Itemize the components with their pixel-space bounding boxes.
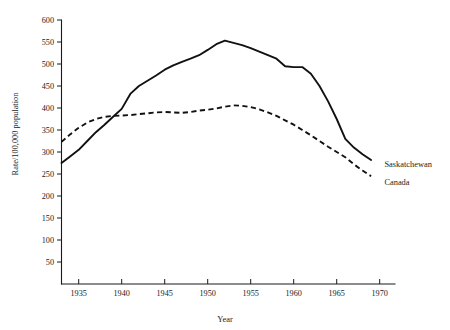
y-tick-label: 150 [42,214,54,223]
series-label-saskatchewan: Saskatchewan [384,160,432,169]
line-chart: 50100150200250300350400450500550600 1935… [0,0,450,330]
x-tick-label: 1940 [114,289,130,298]
x-tick-label: 1935 [71,289,87,298]
x-tick-label: 1960 [286,289,302,298]
y-axis-ticks: 50100150200250300350400450500550600 [42,16,62,267]
series-label-canada: Canada [384,178,409,187]
series-line-saskatchewan [62,41,372,163]
series-line-canada [62,105,372,176]
chart-figure: 50100150200250300350400450500550600 1935… [0,0,450,330]
x-tick-label: 1950 [200,289,216,298]
y-tick-label: 400 [42,104,54,113]
y-tick-label: 600 [42,16,54,25]
x-tick-label: 1965 [329,289,345,298]
y-tick-label: 200 [42,192,54,201]
y-tick-label: 300 [42,148,54,157]
x-axis-ticks: 19351940194519501955196019651970 [71,279,388,298]
y-tick-label: 250 [42,170,54,179]
y-tick-label: 350 [42,126,54,135]
y-axis-title: Rate/100,000 population [11,92,20,176]
y-tick-label: 100 [42,236,54,245]
y-tick-label: 50 [46,258,54,267]
y-tick-label: 500 [42,60,54,69]
x-tick-label: 1945 [157,289,173,298]
x-tick-label: 1955 [243,289,259,298]
x-axis-title: Year [217,315,233,324]
x-tick-label: 1970 [372,289,388,298]
y-tick-label: 550 [42,38,54,47]
y-tick-label: 450 [42,82,54,91]
